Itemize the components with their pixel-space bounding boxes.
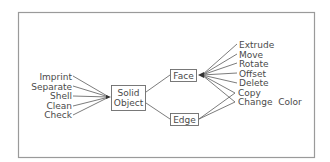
- label-change-color: Change Color: [238, 97, 302, 107]
- face-label: Face: [173, 71, 194, 81]
- connector-solid-face: [146, 75, 170, 92]
- label-imprint: Imprint: [39, 72, 72, 82]
- solid-object-line1: Solid: [118, 88, 140, 98]
- face-operations: Extrude Move Rotate Offset Delete Copy C…: [238, 40, 302, 107]
- edge-operation-connectors: [199, 93, 235, 119]
- label-delete: Delete: [239, 78, 269, 88]
- label-extrude: Extrude: [239, 40, 275, 50]
- face-node: Face: [171, 70, 197, 82]
- edge-label: Edge: [173, 115, 196, 125]
- solid-editing-diagram: Imprint Separate Shell Clean Check Solid…: [0, 0, 330, 162]
- connector-solid-edge: [146, 103, 170, 119]
- solid-object-node: Solid Object: [112, 86, 146, 111]
- arrowhead-icon: [198, 72, 204, 78]
- label-rotate: Rotate: [239, 59, 269, 69]
- label-check: Check: [44, 110, 72, 120]
- body-operations: Imprint Separate Shell Clean Check: [31, 72, 73, 120]
- edge-node: Edge: [171, 114, 199, 126]
- label-shell: Shell: [50, 91, 72, 101]
- body-operation-connectors: [73, 76, 111, 115]
- solid-object-line2: Object: [114, 98, 144, 108]
- arrowhead-icon: [106, 95, 111, 99]
- face-operation-connectors: [198, 44, 237, 102]
